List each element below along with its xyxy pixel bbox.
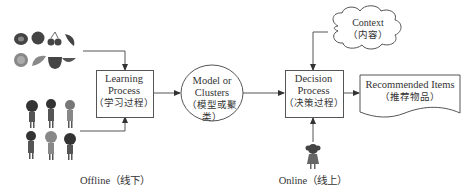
single-user-icon [306, 144, 321, 169]
context-line1: Context [338, 17, 398, 29]
online-label: Online（线上） [258, 175, 368, 187]
context-line2: （内容） [338, 29, 398, 41]
recommended-label: Recommended Items （推荐物品） [360, 79, 460, 103]
learning-line3: （学习过程） [94, 97, 154, 109]
model-label: Model or Clusters （模型或聚类） [181, 75, 243, 123]
learning-line1: Learning [94, 73, 154, 85]
fruit-items-icon [14, 32, 76, 70]
learning-process-label: Learning Process （学习过程） [94, 73, 154, 109]
decision-line1: Decision [283, 73, 344, 85]
learning-line2: Process [94, 85, 154, 97]
recommended-line1: Recommended Items [360, 79, 460, 91]
model-line1: Model or [181, 75, 243, 87]
decision-line2: Process [283, 85, 344, 97]
model-line3: （模型或聚类） [181, 99, 243, 123]
user-group-icon [26, 99, 76, 160]
offline-label: Offline（线下） [60, 175, 170, 187]
model-line2: Clusters [181, 87, 243, 99]
recommended-line2: （推荐物品） [360, 91, 460, 103]
context-label: Context （内容） [338, 17, 398, 41]
decision-process-label: Decision Process （决策过程） [283, 73, 344, 109]
decision-line3: （决策过程） [283, 97, 344, 109]
